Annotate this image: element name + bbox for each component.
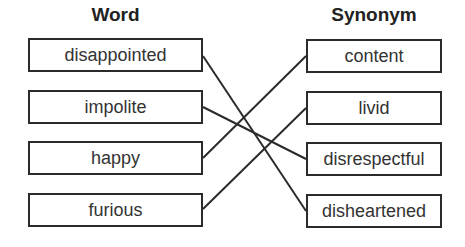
line-happy-content — [203, 56, 306, 158]
synonym-box-disrespectful: disrespectful — [306, 142, 442, 176]
word-box-furious: furious — [28, 193, 203, 227]
word-box-impolite: impolite — [28, 90, 203, 124]
word-box-happy: happy — [28, 141, 203, 175]
synonym-box-content: content — [306, 39, 442, 73]
synonym-box-livid: livid — [306, 91, 442, 125]
line-furious-livid — [203, 108, 306, 209]
synonym-box-disheartened: disheartened — [306, 194, 442, 228]
line-impolite-disrespectful — [203, 107, 306, 159]
word-box-disappointed: disappointed — [28, 38, 203, 72]
